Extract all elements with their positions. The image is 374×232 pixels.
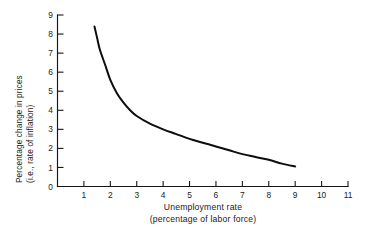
x-axis-ticks: 1234567891011 — [82, 181, 353, 200]
y-tick-label-7: 7 — [48, 48, 53, 58]
phillips-curve-figure: Percentage change in prices (i.e., rate … — [0, 0, 374, 232]
axes-group — [58, 15, 349, 187]
chart-plot-area: 1234567891011 0123456789 — [0, 0, 374, 232]
x-tick-label-9: 9 — [293, 190, 298, 200]
x-tick-label-10: 10 — [317, 190, 327, 200]
curve-path — [94, 26, 295, 166]
x-axis-label: Unemployment rate (percentage of labor f… — [57, 202, 349, 225]
y-tick-label-2: 2 — [48, 143, 53, 153]
y-axis-ticks: 0123456789 — [48, 10, 63, 192]
y-tick-label-9: 9 — [48, 10, 53, 20]
x-tick-label-3: 3 — [134, 190, 139, 200]
x-tick-label-7: 7 — [240, 190, 245, 200]
x-axis-label-line2: (percentage of labor force) — [57, 214, 349, 226]
x-tick-label-8: 8 — [266, 190, 271, 200]
x-tick-label-1: 1 — [82, 190, 87, 200]
phillips-curve-line — [94, 26, 295, 166]
y-tick-label-1: 1 — [48, 163, 53, 173]
y-tick-label-0: 0 — [48, 182, 53, 192]
y-tick-label-8: 8 — [48, 29, 53, 39]
y-tick-label-5: 5 — [48, 86, 53, 96]
x-tick-label-6: 6 — [214, 190, 219, 200]
x-tick-label-4: 4 — [161, 190, 166, 200]
x-tick-label-2: 2 — [108, 190, 113, 200]
x-tick-label-11: 11 — [344, 190, 353, 200]
x-tick-label-5: 5 — [187, 190, 192, 200]
y-tick-label-4: 4 — [48, 105, 53, 115]
y-tick-label-6: 6 — [48, 67, 53, 77]
y-tick-label-3: 3 — [48, 124, 53, 134]
x-axis-label-line1: Unemployment rate — [57, 202, 349, 214]
